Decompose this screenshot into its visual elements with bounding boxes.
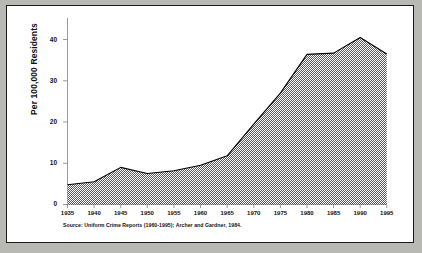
source-note: Source: Uniform Crime Reports (1960-1995… <box>63 222 242 228</box>
x-tick-label-1985: 1985 <box>321 210 347 216</box>
x-axis-tick-labels: 1935 1940 1945 1950 1955 1960 1965 1970 … <box>7 6 415 244</box>
x-tick-label-1950: 1950 <box>134 210 160 216</box>
x-tick-label-1995: 1995 <box>374 210 400 216</box>
x-tick-label-1940: 1940 <box>81 210 107 216</box>
figure-frame: Per 100,000 Residents 0 10 20 30 40 1935… <box>6 5 414 243</box>
x-tick-label-1960: 1960 <box>188 210 214 216</box>
x-tick-label-1990: 1990 <box>347 210 373 216</box>
x-tick-label-1965: 1965 <box>214 210 240 216</box>
x-tick-label-1955: 1955 <box>161 210 187 216</box>
x-tick-label-1980: 1980 <box>294 210 320 216</box>
chart-plot-area: Per 100,000 Residents 0 10 20 30 40 1935… <box>7 6 415 244</box>
x-tick-label-1935: 1935 <box>55 210 81 216</box>
x-tick-label-1970: 1970 <box>241 210 267 216</box>
x-tick-label-1945: 1945 <box>108 210 134 216</box>
x-tick-label-1975: 1975 <box>267 210 293 216</box>
